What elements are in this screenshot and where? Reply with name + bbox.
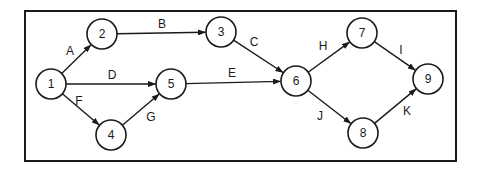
node-label: 4: [108, 128, 115, 142]
node-5: 5: [156, 69, 186, 99]
arrow-icon: [308, 42, 349, 72]
edge-b: B: [117, 17, 206, 34]
edge-label: A: [66, 44, 74, 58]
node-label: 1: [48, 77, 55, 91]
node-9: 9: [413, 64, 443, 94]
node-6: 6: [281, 66, 311, 96]
arrow-icon: [374, 42, 415, 71]
edge-label: H: [319, 39, 328, 53]
edge-k: K: [375, 89, 417, 124]
node-2: 2: [87, 19, 117, 49]
node-label: 6: [293, 74, 300, 88]
edge-j: J: [308, 90, 351, 123]
node-label: 8: [360, 126, 367, 140]
edge-label: J: [317, 109, 323, 123]
edge-g: G: [122, 94, 159, 125]
node-4: 4: [96, 120, 126, 150]
edge-label: G: [146, 110, 155, 124]
edge-label: C: [250, 35, 259, 49]
edge-i: I: [374, 42, 415, 71]
edge-c: C: [234, 35, 283, 73]
edge-e: E: [186, 66, 281, 84]
edge-a: A: [62, 44, 91, 74]
node-3: 3: [206, 17, 236, 47]
node-1: 1: [36, 69, 66, 99]
network-diagram: ABCDEFGHIJK 123456789: [0, 0, 481, 169]
node-label: 7: [359, 26, 366, 40]
edge-label: D: [108, 68, 117, 82]
node-label: 3: [218, 25, 225, 39]
edge-label: B: [158, 17, 166, 31]
edge-d: D: [66, 68, 156, 84]
node-label: 5: [168, 77, 175, 91]
edge-f: F: [62, 94, 99, 125]
edge-label: K: [403, 104, 411, 118]
node-label: 2: [99, 27, 106, 41]
arrow-icon: [186, 81, 281, 83]
arrow-icon: [117, 32, 206, 33]
node-label: 9: [425, 72, 432, 86]
node-8: 8: [348, 118, 378, 148]
edge-label: F: [75, 94, 82, 108]
edge-label: E: [228, 66, 236, 80]
edge-h: H: [308, 39, 349, 72]
node-7: 7: [347, 18, 377, 48]
arrow-icon: [308, 90, 351, 123]
edge-label: I: [399, 43, 402, 57]
